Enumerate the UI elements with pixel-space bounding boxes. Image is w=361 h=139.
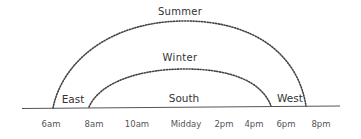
sun-path-diagram: Summer Winter East South West 6am 8am 10… <box>0 0 361 139</box>
summer-label: Summer <box>158 6 203 17</box>
time-label-4pm: 4pm <box>244 119 263 129</box>
time-label-2pm: 2pm <box>214 119 233 129</box>
time-label-midday: Midday <box>171 119 202 129</box>
winter-label: Winter <box>163 52 198 63</box>
horizon-line <box>22 106 340 109</box>
time-label-6pm: 6pm <box>276 119 295 129</box>
direction-west-label: West <box>277 92 303 104</box>
time-label-10am: 10am <box>125 119 149 129</box>
direction-east-label: East <box>62 93 85 105</box>
time-label-6am: 6am <box>42 119 61 129</box>
direction-south-label: South <box>169 92 200 104</box>
time-label-8am: 8am <box>85 119 104 129</box>
time-label-8pm: 8pm <box>311 119 330 129</box>
